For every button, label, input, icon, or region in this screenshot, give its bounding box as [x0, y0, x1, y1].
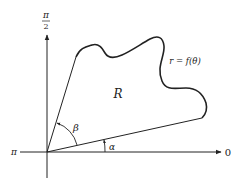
angle-arc-alpha — [104, 140, 105, 152]
polar-region-diagram: π 2 π 0 R r = f(θ) β α — [0, 0, 239, 183]
label-alpha: α — [109, 142, 115, 152]
label-pi-left: π — [10, 147, 18, 157]
curve-r-equals-f-theta — [76, 37, 207, 118]
label-pi-over-2-numerator: π — [42, 10, 50, 20]
label-pi-over-2-denominator: 2 — [43, 22, 48, 31]
ray-alpha — [47, 118, 202, 152]
label-curve-equation: r = f(θ) — [169, 56, 201, 66]
label-beta: β — [72, 122, 79, 133]
ray-beta — [47, 57, 76, 152]
label-region-r: R — [112, 87, 122, 101]
label-zero-right: 0 — [225, 147, 231, 158]
